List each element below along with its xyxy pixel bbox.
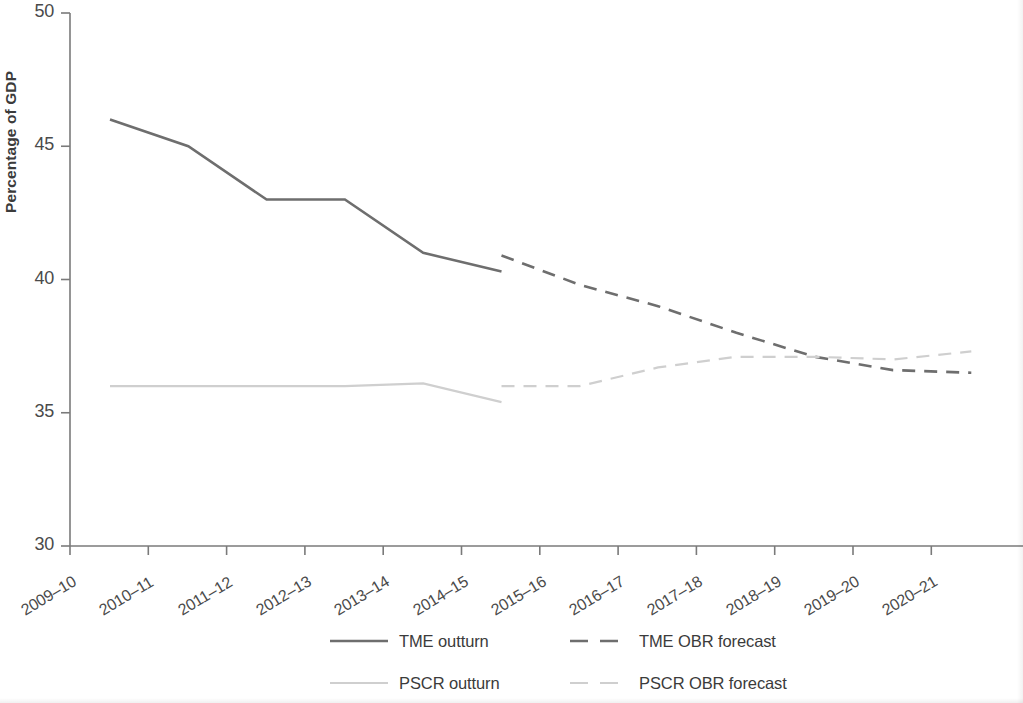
legend-swatch-dashed bbox=[570, 634, 628, 648]
series-line-1 bbox=[502, 256, 972, 373]
legend-swatch-solid bbox=[330, 676, 388, 690]
series-line-3 bbox=[502, 351, 972, 386]
legend-item: PSCR outturn bbox=[330, 668, 500, 698]
y-axis-tick-label: 40 bbox=[8, 268, 54, 289]
legend-label: TME OBR forecast bbox=[639, 632, 776, 651]
legend-item: TME outturn bbox=[330, 626, 489, 656]
y-axis-tick-label: 30 bbox=[8, 534, 54, 555]
y-axis-title: Percentage of GDP bbox=[2, 0, 20, 213]
y-axis-ticks bbox=[61, 13, 70, 546]
chart-figure: Percentage of GDP 3035404550 2009–102010… bbox=[0, 0, 1023, 703]
y-axis-tick-label: 35 bbox=[8, 401, 54, 422]
y-axis-tick-label: 50 bbox=[8, 1, 54, 22]
legend-item: TME OBR forecast bbox=[570, 626, 776, 656]
page-edge-shadow-bottom bbox=[0, 698, 1023, 703]
legend-swatch-solid bbox=[330, 634, 388, 648]
legend-swatch-dashed bbox=[570, 676, 628, 690]
legend-item: PSCR OBR forecast bbox=[570, 668, 787, 698]
legend-label: TME outturn bbox=[399, 632, 489, 651]
x-axis-ticks bbox=[70, 546, 931, 555]
page-edge-shadow-right bbox=[1017, 0, 1023, 703]
chart-legend: TME outturnTME OBR forecastPSCR outturnP… bbox=[330, 626, 800, 700]
legend-label: PSCR outturn bbox=[399, 674, 500, 693]
data-series-group bbox=[110, 120, 971, 402]
y-axis-tick-label: 45 bbox=[8, 134, 54, 155]
series-line-2 bbox=[110, 383, 502, 402]
series-line-0 bbox=[110, 120, 502, 272]
legend-label: PSCR OBR forecast bbox=[639, 674, 787, 693]
